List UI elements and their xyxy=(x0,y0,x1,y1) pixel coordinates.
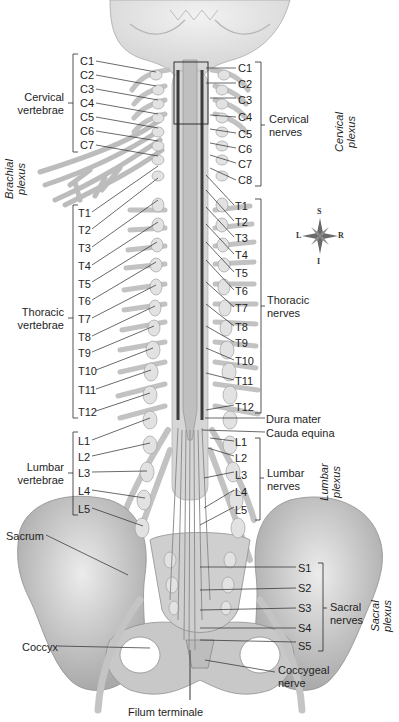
compass-inferior: I xyxy=(317,257,320,266)
label-filum-terminale: Filum terminale xyxy=(128,706,203,718)
label-coccygeal-nerve: Coccygeal nerve xyxy=(278,664,348,690)
group-label-lumbar-vertebrae: Lumbar vertebrae xyxy=(10,461,64,487)
label-vertebra-t12: T12 xyxy=(78,406,97,418)
label-nerve-s1: S1 xyxy=(298,562,311,574)
label-vertebra-t10: T10 xyxy=(78,365,97,377)
label-nerve-c2: C2 xyxy=(238,78,252,90)
label-vertebra-t5: T5 xyxy=(78,278,91,290)
label-brachial-plexus: Brachial plexus xyxy=(3,154,27,204)
label-cervical-plexus: Cervical plexus xyxy=(333,107,357,157)
label-nerve-l1: L1 xyxy=(235,436,247,448)
label-nerve-s4: S4 xyxy=(298,622,311,634)
label-nerve-s2: S2 xyxy=(298,582,311,594)
label-vertebra-l3: L3 xyxy=(78,467,90,479)
group-label-cervical-nerves: Cervical nerves xyxy=(269,113,329,139)
label-nerve-t1: T1 xyxy=(235,200,248,212)
label-sacrum: Sacrum xyxy=(6,530,44,542)
label-vertebra-c7: C7 xyxy=(80,139,94,151)
skull-base xyxy=(110,0,290,80)
compass-superior: S xyxy=(317,207,321,216)
label-vertebra-t8: T8 xyxy=(78,331,91,343)
label-nerve-t8: T8 xyxy=(235,321,248,333)
label-nerve-c6: C6 xyxy=(238,143,252,155)
label-nerve-l2: L2 xyxy=(235,452,247,464)
label-nerve-s5: S5 xyxy=(298,640,311,652)
compass-left: L xyxy=(296,231,301,240)
label-nerve-t7: T7 xyxy=(235,302,248,314)
label-nerve-t6: T6 xyxy=(235,285,248,297)
group-label-thoracic-nerves: Thoracic nerves xyxy=(267,294,327,320)
label-lumbar-plexus: Lumbar plexus xyxy=(318,457,342,507)
label-nerve-t10: T10 xyxy=(235,355,254,367)
brachial-plexus-nerves xyxy=(40,120,162,205)
label-nerve-l5: L5 xyxy=(235,504,247,516)
label-nerve-l3: L3 xyxy=(235,469,247,481)
label-nerve-t3: T3 xyxy=(235,232,248,244)
label-vertebra-c1: C1 xyxy=(80,55,94,67)
compass-rose-icon xyxy=(302,218,338,254)
label-vertebra-t1: T1 xyxy=(78,207,91,219)
label-vertebra-t7: T7 xyxy=(78,313,91,325)
label-vertebra-l1: L1 xyxy=(78,435,90,447)
label-sacral-plexus: Sacral plexus xyxy=(369,591,393,641)
group-label-thoracic-vertebrae: Thoracic vertebrae xyxy=(8,306,64,332)
label-nerve-c3: C3 xyxy=(238,94,252,106)
label-vertebra-t9: T9 xyxy=(78,347,91,359)
label-nerve-t4: T4 xyxy=(235,249,248,261)
label-nerve-c1: C1 xyxy=(238,62,252,74)
compass-right: R xyxy=(338,231,344,240)
label-nerve-t9: T9 xyxy=(235,337,248,349)
label-nerve-c4: C4 xyxy=(238,111,252,123)
label-vertebra-l2: L2 xyxy=(78,451,90,463)
label-vertebra-c5: C5 xyxy=(80,111,94,123)
label-cauda-equina: Cauda equina xyxy=(266,427,335,439)
label-vertebra-t2: T2 xyxy=(78,224,91,236)
label-nerve-s3: S3 xyxy=(298,602,311,614)
label-nerve-c5: C5 xyxy=(238,128,252,140)
label-nerve-t5: T5 xyxy=(235,267,248,279)
label-nerve-t11: T11 xyxy=(235,375,253,387)
group-label-cervical-vertebrae: Cervical vertebrae xyxy=(12,91,64,117)
label-vertebra-l5: L5 xyxy=(78,503,90,515)
label-vertebra-c6: C6 xyxy=(80,125,94,137)
label-nerve-l4: L4 xyxy=(235,486,247,498)
label-nerve-t2: T2 xyxy=(235,216,248,228)
label-vertebra-t11: T11 xyxy=(78,384,96,396)
label-vertebra-t6: T6 xyxy=(78,295,91,307)
label-coccyx: Coccyx xyxy=(22,641,58,653)
label-vertebra-c4: C4 xyxy=(80,97,94,109)
label-vertebra-l4: L4 xyxy=(78,485,90,497)
label-nerve-c8: C8 xyxy=(238,174,252,186)
label-nerve-t12: T12 xyxy=(235,401,254,413)
label-dura-mater: Dura mater xyxy=(266,413,321,425)
label-vertebra-t3: T3 xyxy=(78,242,91,254)
label-vertebra-c3: C3 xyxy=(80,83,94,95)
label-nerve-c7: C7 xyxy=(238,158,252,170)
label-vertebra-t4: T4 xyxy=(78,260,91,272)
label-vertebra-c2: C2 xyxy=(80,69,94,81)
